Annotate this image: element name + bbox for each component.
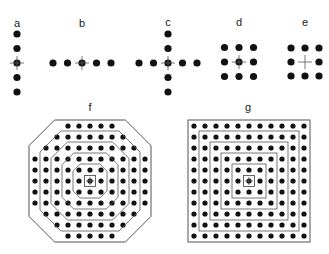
figure-stage: a b c d e f g [0,0,329,254]
dot-panel-f [76,222,81,227]
dot-panel-g [246,200,251,205]
dot-panel-g [235,189,240,194]
dot-panel-f [54,156,59,161]
dot-panel-a [13,74,20,81]
dot-panel-g [257,211,262,216]
dot-panel-g [279,200,284,205]
dot-panel-g [257,167,262,172]
dot-panel-f [109,222,114,227]
dot-panel-g [224,178,229,183]
dot-panel-e [301,44,308,51]
dot-panel-g [191,200,196,205]
dot-panel-f [87,156,92,161]
dot-panel-f [32,200,37,205]
panel-label-g: g [245,102,251,113]
dot-panel-g [213,145,218,150]
dot-panel-f [98,222,103,227]
dot-panel-g [213,200,218,205]
dot-panel-f [98,123,103,128]
dot-panel-f [65,167,70,172]
dot-panel-g [235,178,240,183]
dot-panel-f [120,211,125,216]
dot-panel-f [87,123,92,128]
dot-panel-e [287,58,294,65]
dot-panel-g [290,211,295,216]
dot-panel-d [250,44,257,51]
dot-panel-g [279,178,284,183]
dot-panel-g [301,222,306,227]
dot-panel-f [65,222,70,227]
dot-panel-f [76,123,81,128]
dot-panel-c [193,59,200,66]
dot-panel-g [191,189,196,194]
panel-label-f: f [88,102,91,113]
dot-panel-g [290,123,295,128]
dot-panel-e [301,72,308,79]
dot-panel-c [150,59,157,66]
dot-panel-f [76,200,81,205]
dot-panel-g [213,233,218,238]
dot-panel-f [109,211,114,216]
dot-panel-g [213,178,218,183]
dot-panel-f [76,167,81,172]
dot-panel-g [268,200,273,205]
dot-panel-f [142,167,147,172]
dot-panel-g [268,178,273,183]
dot-panel-g [202,178,207,183]
dot-panel-g [257,156,262,161]
dot-panel-g [235,222,240,227]
dot-panel-d [235,73,242,80]
dot-panel-f [131,200,136,205]
dot-panel-g [202,200,207,205]
dot-panel-e [315,58,322,65]
dot-panel-f [76,233,81,238]
dot-panel-g [224,200,229,205]
dot-panel-f [120,200,125,205]
dot-panel-a [13,88,20,95]
dot-panel-g [213,222,218,227]
dot-panel-g [279,189,284,194]
dot-panel-f [98,189,103,194]
dot-panel-g [279,222,284,227]
dot-panel-f [120,145,125,150]
dot-panel-g [191,145,196,150]
dot-panel-f [142,178,147,183]
dot-panel-e [315,44,322,51]
dot-panel-g [246,189,251,194]
dot-panel-g [202,167,207,172]
dot-panel-c [164,30,171,37]
dot-panel-d [250,58,257,65]
dot-panel-g [268,167,273,172]
dot-panel-g [257,123,262,128]
dot-panel-g [257,222,262,227]
dot-panel-d [221,44,228,51]
dot-panel-g [235,211,240,216]
dot-panel-g [257,200,262,205]
dot-panel-f [87,167,92,172]
dot-panel-g [290,200,295,205]
dot-panel-g [202,189,207,194]
dot-panel-g [268,156,273,161]
dot-panel-f [54,145,59,150]
dot-panel-c [164,45,171,52]
dot-panel-f [54,178,59,183]
dot-panel-g [224,134,229,139]
dot-panel-g [213,167,218,172]
dot-panel-g [235,145,240,150]
dot-panel-g [279,167,284,172]
dot-panel-f [109,167,114,172]
dot-panel-g [246,167,251,172]
dot-panel-e [287,44,294,51]
panel-label-a: a [14,18,20,29]
dot-panel-f [65,123,70,128]
dot-panel-g [301,134,306,139]
dot-panel-b [93,59,100,66]
dot-panel-d [221,73,228,80]
dot-panel-g [301,211,306,216]
dot-panel-g [202,222,207,227]
dot-panel-f [98,211,103,216]
dot-panel-e [287,72,294,79]
dot-panel-g [235,156,240,161]
dot-panel-g [257,178,262,183]
dot-panel-g [191,123,196,128]
